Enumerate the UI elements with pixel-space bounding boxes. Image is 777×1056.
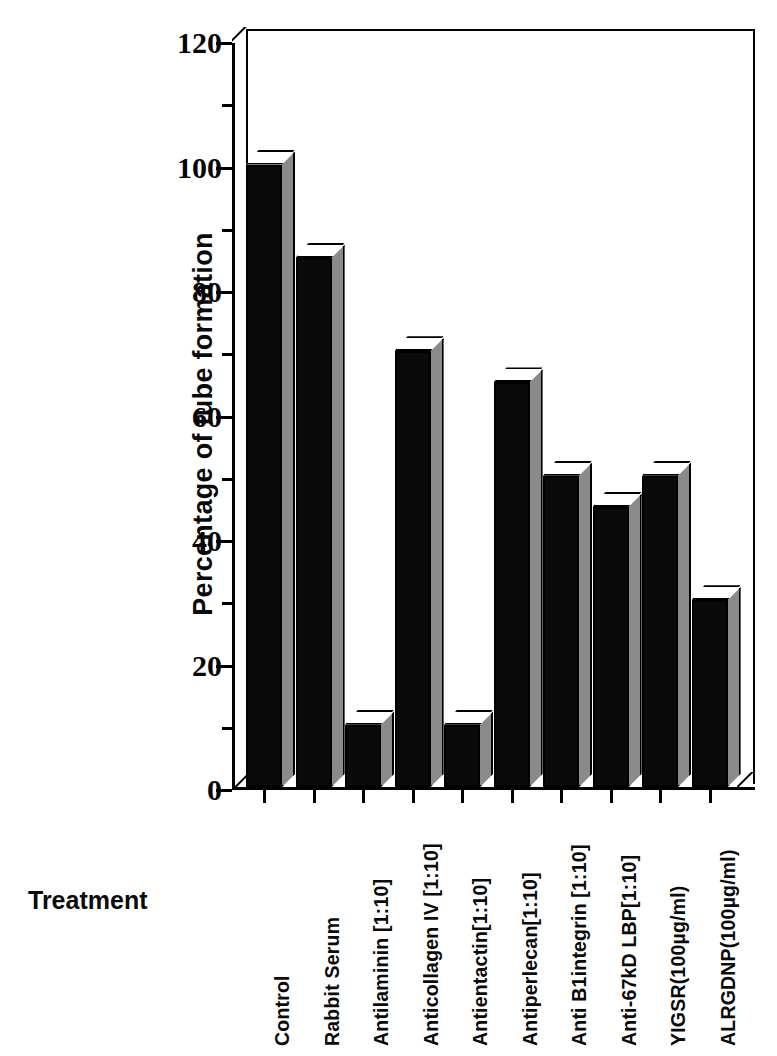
bar-side-face	[431, 338, 444, 787]
bar	[543, 463, 579, 787]
x-tick-label: Control	[271, 975, 294, 1046]
x-tick-label: Antiperlecan[1:10]	[519, 872, 542, 1046]
x-tick-label-group: ControlRabbit SerumAntilaminin [1:10]Ant…	[232, 810, 777, 1056]
x-tick-label: Antientactin[1:10]	[469, 878, 492, 1046]
bar-side-face	[629, 494, 642, 787]
x-tick-label: Anti B1integrin [1:10]	[568, 844, 591, 1046]
bar	[345, 712, 381, 787]
y-tick-minor	[222, 727, 232, 730]
bar	[395, 338, 431, 787]
y-axis-spine	[232, 43, 235, 790]
y-tick-label-group: 020406080100120	[140, 0, 222, 1056]
bar	[593, 494, 629, 787]
y-tick-major	[216, 789, 232, 792]
bar-chart-figure: Percentage of tube formation Treatment 0…	[0, 0, 777, 1056]
x-axis-title: Treatment	[28, 886, 147, 915]
bar-front-face	[395, 351, 431, 787]
bar-side-face	[282, 152, 295, 788]
bar-side-face	[381, 712, 394, 787]
y-tick-major	[216, 167, 232, 170]
x-tick	[412, 790, 415, 803]
x-tick-label: Antilaminin [1:10]	[370, 879, 393, 1046]
y-tick-minor	[222, 229, 232, 232]
bar	[444, 712, 480, 787]
x-tick-label: Anticollagen IV [1:10]	[420, 843, 443, 1046]
bar-front-face	[444, 725, 480, 787]
plot-back-top-edge	[246, 29, 755, 31]
y-tick-minor	[222, 353, 232, 356]
bar-front-face	[345, 725, 381, 787]
bar-front-face	[593, 507, 629, 787]
bar-side-face	[579, 463, 592, 787]
y-tick-major	[216, 291, 232, 294]
x-tick	[659, 790, 662, 803]
bar-front-face	[246, 165, 282, 788]
x-tick	[511, 790, 514, 803]
bar-front-face	[642, 476, 678, 787]
bar-side-face	[728, 587, 741, 787]
y-tick-minor	[222, 478, 232, 481]
y-tick-major	[216, 416, 232, 419]
y-tick-label: 120	[140, 26, 222, 60]
x-tick	[610, 790, 613, 803]
bar-front-face	[494, 382, 530, 787]
y-tick-label: 20	[140, 649, 222, 683]
y-tick-label: 100	[140, 151, 222, 185]
bar-side-face	[678, 463, 691, 787]
x-tick	[709, 790, 712, 803]
y-tick-minor	[222, 602, 232, 605]
plot-back-right-edge	[753, 29, 755, 784]
y-tick-minor	[222, 104, 232, 107]
x-tick-label: Rabbit Serum	[321, 917, 344, 1046]
y-tick-major	[216, 665, 232, 668]
x-tick-label: ALRGDNP(100µg/ml)	[717, 849, 740, 1046]
plot-corner-diagonal-top-left	[232, 27, 250, 45]
x-tick	[313, 790, 316, 803]
y-tick-label: 40	[140, 524, 222, 558]
y-tick-major	[216, 42, 232, 45]
y-tick-label: 60	[140, 400, 222, 434]
plot-area	[232, 43, 755, 790]
bar-front-face	[692, 600, 728, 787]
bar-front-face	[296, 258, 332, 787]
bar	[692, 587, 728, 787]
x-axis-spine	[232, 787, 755, 790]
x-tick-label: YIGSR(100µg/ml)	[667, 885, 690, 1046]
y-tick-major	[216, 540, 232, 543]
bar-side-face	[530, 369, 543, 787]
x-tick-label: Anti-67kD LBP[1:10]	[618, 855, 641, 1046]
x-tick	[560, 790, 563, 803]
x-tick	[461, 790, 464, 803]
bar	[296, 245, 332, 787]
y-tick-label: 80	[140, 275, 222, 309]
bar-side-face	[332, 245, 345, 787]
bar	[494, 369, 530, 787]
x-tick	[362, 790, 365, 803]
y-tick-label: 0	[140, 773, 222, 807]
bar	[642, 463, 678, 787]
bar	[246, 152, 282, 788]
x-tick	[263, 790, 266, 803]
bar-side-face	[480, 712, 493, 787]
bar-front-face	[543, 476, 579, 787]
